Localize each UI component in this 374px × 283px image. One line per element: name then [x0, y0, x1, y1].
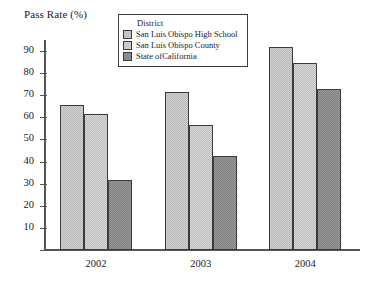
legend-swatch [123, 30, 132, 39]
bar [84, 114, 108, 250]
legend-swatch [123, 52, 132, 61]
y-tick-label: 60 [12, 111, 34, 122]
x-tick-label: 2002 [66, 258, 126, 269]
x-tick-label: 2004 [275, 258, 335, 269]
bar [293, 63, 317, 250]
y-tick-label: 40 [12, 156, 34, 167]
legend-label: San Luis Obispo County [136, 40, 220, 51]
legend-item: San Luis Obispo County [123, 40, 247, 51]
plot-area [46, 40, 360, 250]
legend-item: State ofCalifornia [123, 51, 247, 62]
bar [213, 156, 237, 250]
bar-chart: Pass Rate (%) 102030405060708090 2002200… [0, 0, 374, 283]
bar [60, 105, 84, 250]
legend-title: District [137, 18, 247, 28]
y-tick-label: 90 [12, 45, 34, 56]
y-tick-label: 10 [12, 222, 34, 233]
y-tick-label: 70 [12, 89, 34, 100]
chart-title: Pass Rate (%) [24, 8, 87, 20]
bar [317, 89, 341, 250]
y-tick-label: 20 [12, 200, 34, 211]
legend-label: State ofCalifornia [136, 51, 197, 62]
y-tick-label: 50 [12, 133, 34, 144]
legend-item: San Luis Obispo High School [123, 29, 247, 40]
bar [108, 180, 132, 250]
x-tick-label: 2003 [171, 258, 231, 269]
y-tick-label: 30 [12, 178, 34, 189]
bar [165, 92, 189, 250]
legend: District San Luis Obispo High SchoolSan … [118, 14, 248, 67]
bar [269, 47, 293, 250]
y-tick [40, 250, 47, 251]
y-tick-label: 80 [12, 67, 34, 78]
bar [189, 125, 213, 250]
legend-label: San Luis Obispo High School [136, 29, 238, 40]
legend-swatch [123, 41, 132, 50]
